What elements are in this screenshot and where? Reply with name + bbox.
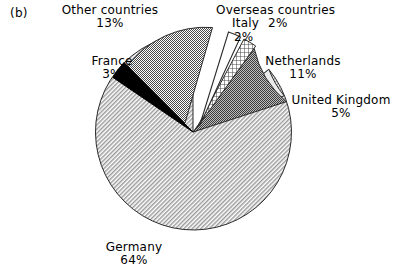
pie-label-germany-percent: 64% — [96, 254, 172, 267]
pie-label-italy-percent: 2% — [234, 30, 253, 44]
pie-label-netherlands-percent: 11% — [262, 68, 344, 81]
pie-label-other-countries: Other countries 13% — [52, 4, 168, 30]
pie-label-italy-name: Italy — [232, 16, 259, 30]
pie-label-other-countries-percent: 13% — [52, 17, 168, 30]
pie-label-overseas-countries-name: Overseas countries — [216, 3, 335, 17]
pie-label-italy-percent-wrap: 2% — [234, 31, 253, 44]
pie-label-france: France 3% — [77, 55, 147, 81]
pie-chart — [0, 0, 395, 270]
pie-label-overseas-countries-percent: 2% — [268, 16, 287, 30]
pie-label-germany: Germany 64% — [96, 241, 172, 267]
pie-label-united-kingdom-percent: 5% — [291, 107, 391, 120]
figure-panel-b: (b) — [0, 0, 395, 270]
pie-label-row-italy-overseas: Italy2% — [232, 17, 287, 30]
pie-label-netherlands: Netherlands 11% — [262, 55, 344, 81]
pie-label-united-kingdom: United Kingdom 5% — [291, 94, 391, 120]
pie-label-france-percent: 3% — [77, 68, 147, 81]
